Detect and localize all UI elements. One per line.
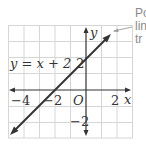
y-tick-label-neg2: −2 [70, 114, 89, 129]
x-tick-label-2: 2 [111, 93, 119, 108]
equation-label: y = x + 2 [9, 56, 71, 71]
x-tick-label-neg2: −2 [43, 93, 62, 108]
plotted-line [10, 34, 111, 135]
x-tick-label-neg4: −4 [11, 93, 30, 108]
y-axis-arrow-up-icon [84, 27, 89, 33]
y-tick-label-2: 2 [76, 56, 84, 71]
origin-label: O [73, 93, 84, 108]
x-axis-label: x [124, 92, 132, 107]
y-axis-label: y [89, 25, 98, 40]
y-axis-arrow-down-icon [84, 130, 89, 136]
x-axis-arrow-left-icon [9, 88, 15, 93]
leader-arrow-icon [113, 29, 119, 33]
annotation-line-3: tr [135, 33, 142, 46]
coordinate-plane: y = x + 2 y x O −4 −2 2 2 −2 [0, 0, 146, 154]
